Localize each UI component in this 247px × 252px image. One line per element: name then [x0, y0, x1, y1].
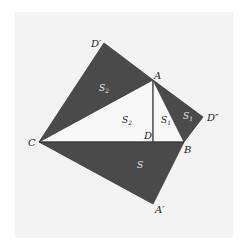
label-s2-inner-sub: 2 [127, 119, 132, 126]
label-a: A [153, 70, 161, 81]
geometry-diagram: D′ A D″ C D B A′ S2 S2 S1 S1 S [0, 0, 247, 252]
label-c: C [28, 137, 36, 148]
label-a-prime: A′ [154, 204, 165, 215]
region-s-dark [39, 142, 184, 204]
label-d: D [143, 130, 152, 141]
label-d-double-prime: D″ [206, 112, 219, 123]
label-b: B [183, 144, 191, 155]
label-s-main: S [137, 160, 143, 170]
label-d-prime: D′ [90, 38, 102, 49]
label-s2-outer-sub: 2 [104, 87, 109, 94]
label-s1-inner-sub: 1 [167, 119, 171, 126]
label-s1-outer-sub: 1 [189, 115, 193, 122]
